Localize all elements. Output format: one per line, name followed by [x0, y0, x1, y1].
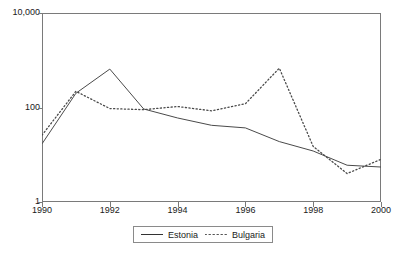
chart-figure: 10,0001001 199019921994199619982000 Esto…	[0, 0, 403, 255]
x-axis-tick-mark	[178, 202, 179, 207]
x-axis-tick-mark	[245, 202, 246, 207]
legend-label-bulgaria: Bulgaria	[232, 230, 265, 240]
x-axis-tick-mark	[42, 202, 43, 207]
x-axis: 199019921994199619982000	[0, 0, 403, 255]
x-axis-tick-mark	[110, 202, 111, 207]
chart-legend: Estonia Bulgaria	[133, 226, 273, 243]
x-axis-tick-mark	[381, 202, 382, 207]
legend-item-bulgaria: Bulgaria	[205, 230, 265, 240]
legend-line-dotted-icon	[205, 231, 227, 238]
legend-label-estonia: Estonia	[168, 230, 198, 240]
legend-line-solid-icon	[141, 231, 163, 238]
legend-item-estonia: Estonia	[141, 230, 198, 240]
x-axis-tick-mark	[313, 202, 314, 207]
